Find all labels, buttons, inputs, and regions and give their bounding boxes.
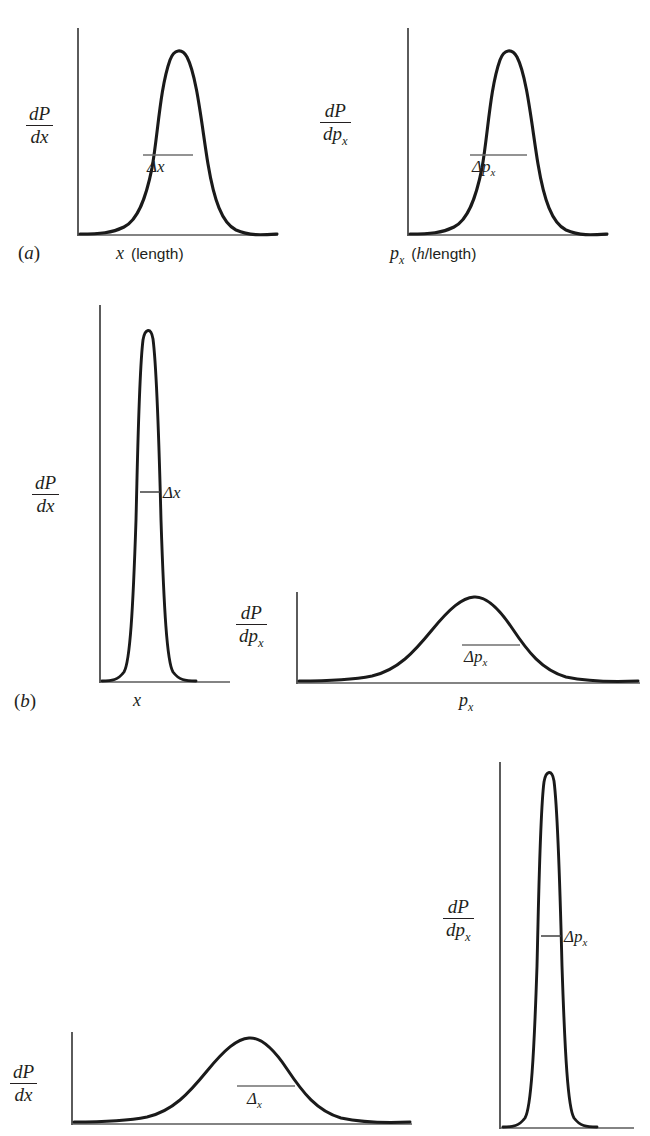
chart-b-right	[297, 592, 640, 684]
gaussian-curve	[80, 51, 277, 235]
width-marker-label-c-right: Δpx	[564, 927, 587, 948]
x-axis-unit-a-left: (length)	[131, 245, 184, 262]
y-axis-label-b-left: dP dx	[32, 473, 59, 516]
x-axis-label-b-left: x	[133, 690, 141, 711]
width-marker-label-b-left: Δx	[163, 483, 181, 503]
figure-page: dP dx (a) x(length) Δx dP dpx px(h/lengt…	[0, 0, 650, 1136]
gaussian-curve	[74, 1038, 410, 1123]
gaussian-curve	[299, 597, 638, 682]
gaussian-curve	[102, 330, 196, 681]
x-axis-label-b-right: px	[459, 690, 473, 715]
gaussian-curve	[503, 772, 597, 1127]
gaussian-curve	[410, 51, 607, 235]
x-axis-unit-a-right: (h/length)	[411, 245, 476, 262]
y-axis-label-c-right: dP dpx	[443, 897, 474, 944]
chart-a-right	[408, 28, 608, 236]
width-marker-label-a-left: Δx	[147, 157, 165, 177]
chart-a-left	[78, 28, 278, 236]
x-axis-label-a-left: x(length)	[116, 243, 184, 264]
y-axis-label-a-right: dP dpx	[320, 101, 351, 148]
y-axis-label-a-left: dP dx	[26, 104, 53, 147]
panel-letter-a: (a)	[18, 242, 40, 264]
chart-c-left	[72, 1032, 412, 1125]
panel-letter-b: (b)	[14, 690, 36, 712]
x-axis-label-a-right: px(h/length)	[390, 243, 476, 268]
width-marker-label-a-right: Δpx	[472, 157, 495, 178]
y-axis-label-c-left: dP dx	[10, 1062, 37, 1105]
width-marker-label-b-right: Δpx	[464, 647, 487, 668]
y-axis-label-b-right: dP dpx	[236, 603, 267, 650]
width-marker-label-c-left: Δx	[247, 1089, 262, 1110]
figure-plot-layer	[0, 0, 650, 1136]
